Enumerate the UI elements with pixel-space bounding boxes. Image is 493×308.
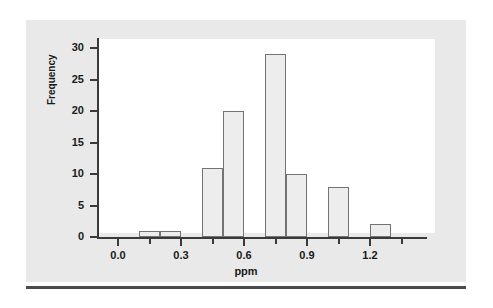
x-axis-tick-label: 0.9 [287, 249, 327, 261]
y-axis-tick [90, 79, 97, 81]
y-axis-tick-label: 0 [44, 231, 84, 242]
x-axis-minor-tick [275, 239, 277, 244]
x-axis-line [97, 237, 427, 239]
x-axis-minor-tick [338, 239, 340, 244]
x-axis-minor-tick [401, 239, 403, 244]
y-axis-tick [90, 236, 97, 238]
histogram-bar [223, 111, 244, 237]
y-axis-tick [90, 47, 97, 49]
histogram-bar [265, 54, 286, 237]
y-axis-tick-label: 15 [44, 137, 84, 148]
y-axis-line [97, 38, 99, 238]
y-axis-tick-label: 30 [44, 42, 84, 53]
y-axis-tick-label: 20 [44, 105, 84, 116]
x-axis-tick [180, 239, 182, 246]
x-axis-tick [369, 239, 371, 246]
y-axis-tick-label: 5 [44, 200, 84, 211]
x-axis-title: ppm [26, 265, 466, 277]
histogram-bar [370, 224, 391, 237]
histogram-bar [328, 187, 349, 237]
x-axis-minor-tick [212, 239, 214, 244]
x-axis-tick [306, 239, 308, 246]
x-axis-tick-label: 0.6 [224, 249, 264, 261]
x-axis-minor-tick [149, 239, 151, 244]
y-axis-tick [90, 173, 97, 175]
histogram-figure-panel: 051015202530 0.00.30.60.91.2 Frequency p… [26, 20, 466, 282]
y-axis-tick-label: 10 [44, 168, 84, 179]
x-axis-tick [243, 239, 245, 246]
x-axis-tick-label: 0.3 [161, 249, 201, 261]
histogram-bar [286, 174, 307, 237]
histogram-bar [202, 168, 223, 237]
y-axis-tick [90, 205, 97, 207]
x-axis-tick-label: 0.0 [98, 249, 138, 261]
y-axis-tick [90, 142, 97, 144]
y-axis-tick [90, 110, 97, 112]
x-axis-tick-label: 1.2 [350, 249, 390, 261]
x-axis-tick [117, 239, 119, 246]
bottom-rule [26, 286, 466, 289]
y-axis-title: Frequency [46, 54, 57, 105]
